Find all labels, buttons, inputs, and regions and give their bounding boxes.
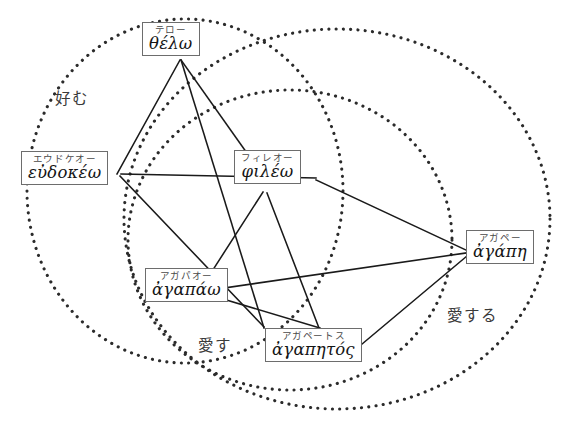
word-node-thelo[interactable]: テローθέλω — [142, 22, 200, 56]
word-node-phileo[interactable]: フィレオーφιλέω — [234, 150, 301, 184]
word-node-greek-agapao: ἀγαπάω — [152, 282, 221, 299]
semantic-field-diagram: 好む愛す愛する テローθέλωエウドケオーεὐδοκέωフィレオーφιλέωアガ… — [0, 0, 562, 433]
word-node-greek-phileo: φιλέω — [241, 164, 294, 181]
edge-phileo-to-agape — [316, 180, 466, 250]
edge-lines-layer — [117, 60, 467, 360]
region-label-aisu: 愛す — [198, 333, 232, 355]
word-node-agapetos[interactable]: アガペートスἀγαπητός — [265, 328, 362, 362]
word-node-agapao[interactable]: アガパオーἀγαπάω — [145, 268, 228, 302]
edge-thelo-to-eudokeo — [117, 60, 180, 174]
word-node-eudokeo[interactable]: エウドケオーεὐδοκέω — [21, 151, 108, 185]
word-node-greek-agapetos: ἀγαπητός — [272, 342, 355, 359]
word-node-greek-eudokeo: εὐδοκέω — [28, 165, 101, 182]
region-label-konomu: 好む — [55, 86, 89, 108]
diagram-canvas — [0, 0, 562, 433]
word-node-greek-thelo: θέλω — [149, 36, 193, 53]
edge-phileo-to-agapetos — [267, 193, 319, 328]
word-node-greek-agape: ἀγάπη — [473, 244, 527, 261]
word-node-agape[interactable]: アガペーἀγάπη — [466, 230, 534, 264]
region-label-aisuru: 愛する — [447, 303, 499, 325]
